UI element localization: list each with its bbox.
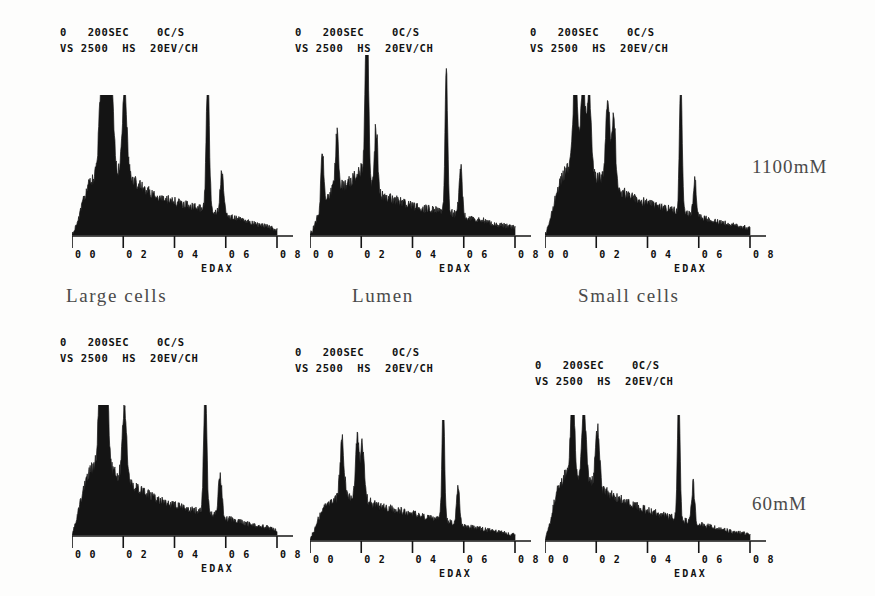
x-axis-tick-label: 0 6 — [229, 549, 251, 560]
header-livetime: 200SEC — [558, 26, 600, 38]
header-line-1: 0 200SEC 0C/S — [60, 334, 198, 350]
spectrum-panel-small-cells-60mm: 0 00 20 40 60 8EDAX — [545, 415, 784, 566]
x-axis-tick-label: 0 6 — [467, 554, 489, 565]
header-countrate: 0C/S — [632, 359, 660, 371]
edax-spectra-figure: 0 200SEC 0C/SVS 2500 HS 20EV/CH0 00 20 4… — [0, 0, 875, 596]
x-axis-tick-label: 0 6 — [702, 554, 724, 565]
header-start-value: 0 — [530, 26, 537, 38]
spectrum-svg — [310, 55, 549, 261]
instrument-header-lumen-1100mm: 0 200SEC 0C/SVS 2500 HS 20EV/CH — [295, 24, 433, 56]
x-axis-tick-label: 0 8 — [280, 549, 302, 560]
header-livetime: 200SEC — [323, 26, 365, 38]
header-energy-per-channel: 20EV/CH — [150, 352, 198, 364]
x-axis-tick-label: 0 8 — [518, 554, 540, 565]
x-axis-tick-label: 0 0 — [313, 554, 335, 565]
x-axis-tick-label: 0 6 — [467, 249, 489, 260]
spectrum-svg — [545, 415, 784, 566]
spectrum-panel-small-cells-1100mm: 0 00 20 40 60 8EDAX — [545, 95, 784, 261]
header-line-1: 0 200SEC 0C/S — [535, 357, 673, 373]
header-vs-value: 2500 — [81, 42, 109, 54]
header-countrate: 0C/S — [392, 26, 420, 38]
x-axis-tick-label: 0 2 — [364, 554, 386, 565]
header-hs-label: HS — [592, 42, 606, 54]
header-start-value: 0 — [60, 26, 67, 38]
header-line-1: 0 200SEC 0C/S — [295, 344, 433, 360]
x-axis-tick-label: 0 4 — [416, 249, 438, 260]
header-livetime: 200SEC — [563, 359, 605, 371]
x-axis-tick-labels: 0 00 20 40 60 8 — [72, 549, 311, 563]
header-livetime: 200SEC — [88, 336, 130, 348]
x-axis-tick-label: 0 2 — [364, 249, 386, 260]
edax-detector-label: EDAX — [439, 263, 472, 274]
x-axis-tick-label: 0 2 — [126, 249, 148, 260]
header-vs-value: 2500 — [556, 375, 584, 387]
spectrum-svg — [310, 420, 549, 566]
header-energy-per-channel: 20EV/CH — [620, 42, 668, 54]
header-start-value: 0 — [60, 336, 67, 348]
x-axis-tick-label: 0 0 — [313, 249, 335, 260]
row-label: 60mM — [752, 493, 807, 515]
spectrum-trace — [545, 95, 750, 235]
x-axis-tick-labels: 0 00 20 40 60 8 — [545, 249, 784, 263]
header-energy-per-channel: 20EV/CH — [385, 362, 433, 374]
header-energy-per-channel: 20EV/CH — [625, 375, 673, 387]
spectrum-svg — [545, 95, 784, 261]
x-axis-tick-label: 0 8 — [753, 554, 775, 565]
instrument-header-large-cells-1100mm: 0 200SEC 0C/SVS 2500 HS 20EV/CH — [60, 24, 198, 56]
header-line-2: VS 2500 HS 20EV/CH — [295, 40, 433, 56]
spectrum-panel-lumen-1100mm: 0 00 20 40 60 8EDAX — [310, 55, 549, 261]
edax-detector-label: EDAX — [439, 568, 472, 579]
x-axis-tick-label: 0 8 — [518, 249, 540, 260]
spectrum-trace — [72, 95, 277, 235]
x-axis-tick-labels: 0 00 20 40 60 8 — [310, 554, 549, 568]
spectrum-trace — [545, 415, 750, 540]
edax-detector-label: EDAX — [674, 263, 707, 274]
header-vs-value: 2500 — [316, 362, 344, 374]
x-axis-tick-label: 0 2 — [126, 549, 148, 560]
header-line-2: VS 2500 HS 20EV/CH — [60, 350, 198, 366]
header-energy-per-channel: 20EV/CH — [150, 42, 198, 54]
spectrum-panel-large-cells-1100mm: 0 00 20 40 60 8EDAX — [72, 95, 311, 261]
instrument-header-small-cells-1100mm: 0 200SEC 0C/SVS 2500 HS 20EV/CH — [530, 24, 668, 56]
header-line-1: 0 200SEC 0C/S — [530, 24, 668, 40]
header-energy-per-channel: 20EV/CH — [385, 42, 433, 54]
row-label: 1100mM — [752, 156, 828, 178]
header-countrate: 0C/S — [157, 336, 185, 348]
edax-detector-label: EDAX — [201, 263, 234, 274]
x-axis-tick-label: 0 8 — [753, 249, 775, 260]
column-label: Small cells — [578, 285, 680, 307]
header-vs-value: 2500 — [81, 352, 109, 364]
column-label: Lumen — [352, 285, 414, 307]
header-line-2: VS 2500 HS 20EV/CH — [530, 40, 668, 56]
header-hs-label: HS — [122, 352, 136, 364]
header-line-2: VS 2500 HS 20EV/CH — [535, 373, 673, 389]
header-start-value: 0 — [535, 359, 542, 371]
header-livetime: 200SEC — [323, 346, 365, 358]
header-line-1: 0 200SEC 0C/S — [60, 24, 198, 40]
edax-detector-label: EDAX — [674, 568, 707, 579]
x-axis-tick-label: 0 6 — [702, 249, 724, 260]
header-hs-label: HS — [357, 42, 371, 54]
spectrum-panel-lumen-60mm: 0 00 20 40 60 8EDAX — [310, 420, 549, 566]
spectrum-trace — [310, 55, 515, 235]
spectrum-svg — [72, 95, 311, 261]
header-vs-label: VS — [295, 362, 309, 374]
x-axis-tick-labels: 0 00 20 40 60 8 — [72, 249, 311, 263]
header-livetime: 200SEC — [88, 26, 130, 38]
column-label: Large cells — [66, 285, 167, 307]
header-hs-label: HS — [357, 362, 371, 374]
instrument-header-lumen-60mm: 0 200SEC 0C/SVS 2500 HS 20EV/CH — [295, 344, 433, 376]
spectrum-svg — [72, 405, 311, 561]
header-countrate: 0C/S — [627, 26, 655, 38]
header-vs-label: VS — [60, 352, 74, 364]
header-vs-label: VS — [530, 42, 544, 54]
header-vs-label: VS — [295, 42, 309, 54]
spectrum-panel-large-cells-60mm: 0 00 20 40 60 8EDAX — [72, 405, 311, 561]
x-axis-tick-label: 0 4 — [178, 549, 200, 560]
x-axis-tick-labels: 0 00 20 40 60 8 — [310, 249, 549, 263]
x-axis-tick-labels: 0 00 20 40 60 8 — [545, 554, 784, 568]
spectrum-trace — [310, 420, 515, 540]
header-countrate: 0C/S — [392, 346, 420, 358]
x-axis-tick-label: 0 8 — [280, 249, 302, 260]
edax-detector-label: EDAX — [201, 563, 234, 574]
